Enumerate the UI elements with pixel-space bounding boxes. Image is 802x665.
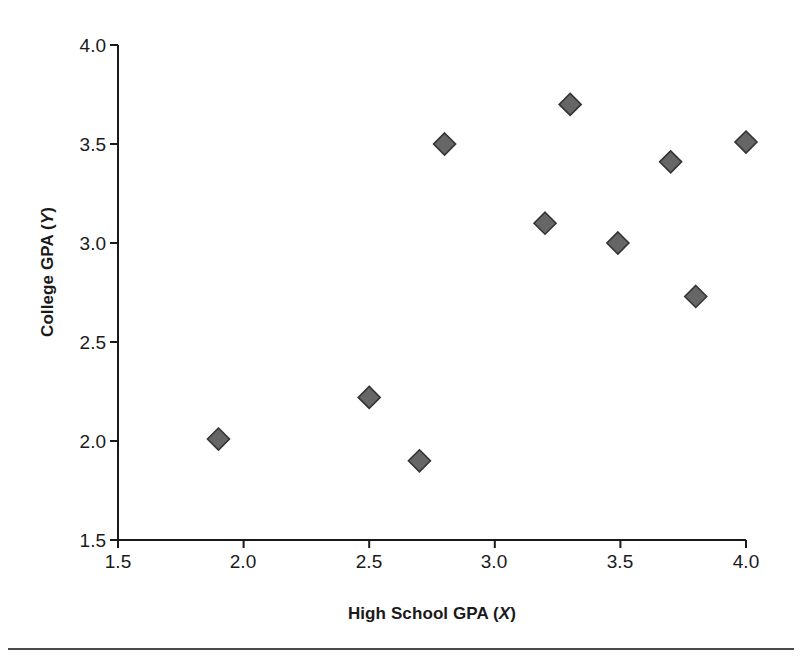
data-point-marker: [434, 133, 456, 155]
plot-area: [0, 0, 802, 665]
axis-ticks: [110, 45, 746, 548]
data-point-marker: [408, 450, 430, 472]
data-point-marker: [660, 151, 682, 173]
data-point-marker: [358, 386, 380, 408]
scatter-plot-figure: College GPA (Y) High School GPA (X) 4.0 …: [0, 0, 802, 665]
bottom-divider-rule: [8, 648, 794, 650]
data-point-marker: [735, 131, 757, 153]
data-point-marker: [607, 232, 629, 254]
data-point-marker: [685, 285, 707, 307]
data-markers: [207, 93, 757, 471]
data-point-marker: [207, 428, 229, 450]
axes-lines: [118, 45, 746, 540]
data-point-marker: [534, 212, 556, 234]
data-point-marker: [559, 93, 581, 115]
